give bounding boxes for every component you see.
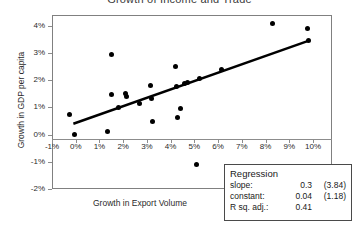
x-tick-label: 3% <box>134 142 160 151</box>
regression-rows: slope:0.3(3.84)constant:0.04(1.18)R sq. … <box>230 180 351 213</box>
x-tick-label: 9% <box>276 142 302 151</box>
y-axis-title: Growth in GDP per capita <box>16 40 26 160</box>
regression-row-value: 0.04 <box>282 191 312 202</box>
regression-row: slope:0.3(3.84) <box>230 180 351 191</box>
data-point <box>197 76 202 81</box>
y-tick <box>48 53 52 54</box>
y-tick-label: -1% <box>23 157 45 166</box>
regression-row-stat: (3.84) <box>312 180 346 191</box>
y-tick-label: 4% <box>23 21 45 30</box>
y-tick <box>48 162 52 163</box>
plot-area <box>52 15 332 189</box>
regression-title: Regression <box>230 168 351 179</box>
y-tick-label: 0% <box>23 130 45 139</box>
x-tick-label: 2% <box>110 142 136 151</box>
x-tick-label: -1% <box>39 142 65 151</box>
x-axis-title: Growth in Export Volume <box>55 198 225 208</box>
x-tick-label: 10% <box>300 142 326 151</box>
regression-row-stat: (1.18) <box>312 191 346 202</box>
data-point <box>148 83 153 88</box>
x-tick-label: 0% <box>63 142 89 151</box>
data-point <box>124 94 129 99</box>
data-point <box>305 26 310 31</box>
x-tick-label: 6% <box>205 142 231 151</box>
x-tick-label: 5% <box>181 142 207 151</box>
regression-row-value: 0.41 <box>282 202 312 213</box>
y-tick <box>48 107 52 108</box>
y-tick-label: -2% <box>23 184 45 193</box>
y-tick <box>48 135 52 136</box>
data-point <box>109 52 114 57</box>
y-tick-label: 1% <box>23 102 45 111</box>
x-tick-label: 8% <box>253 142 279 151</box>
regression-row-key: constant: <box>230 191 282 202</box>
data-point <box>306 38 311 43</box>
x-tick-label: 4% <box>158 142 184 151</box>
y-tick <box>48 26 52 27</box>
regression-row-key: R sq. adj.: <box>230 202 282 213</box>
data-point <box>109 92 114 97</box>
regression-row: constant:0.04(1.18) <box>230 191 351 202</box>
y-tick-label: 2% <box>23 75 45 84</box>
x-tick-label: 1% <box>86 142 112 151</box>
chart-root: Growth of Income and Trade -1%0%1%2%3%4%… <box>0 0 359 229</box>
data-point <box>105 129 110 134</box>
regression-row-value: 0.3 <box>282 180 312 191</box>
data-point <box>178 106 183 111</box>
y-tick-label: 3% <box>23 48 45 57</box>
data-point <box>116 105 121 110</box>
y-tick <box>48 80 52 81</box>
chart-title: Growth of Income and Trade <box>0 0 359 5</box>
x-tick-label: 7% <box>229 142 255 151</box>
y-tick <box>48 189 52 190</box>
regression-row-key: slope: <box>230 180 282 191</box>
regression-row: R sq. adj.:0.41 <box>230 202 351 213</box>
data-point <box>173 64 178 69</box>
regression-legend-box: Regression slope:0.3(3.84)constant:0.04(… <box>224 164 352 221</box>
